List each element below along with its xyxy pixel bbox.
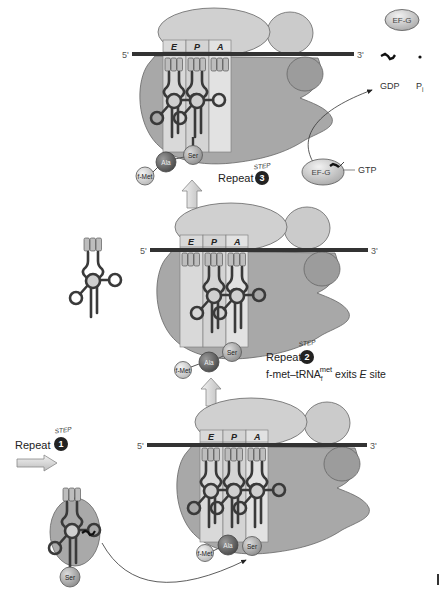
three-prime-label: 3' — [370, 441, 377, 451]
step-word: STEP — [253, 161, 271, 170]
edge-mark — [437, 574, 439, 585]
repeat-step-1-label: Repeat — [15, 439, 50, 451]
amino-acid-label: Ala — [161, 159, 171, 166]
ef-g-bound-label: EF-G — [311, 168, 330, 177]
step-number: 2 — [304, 352, 309, 362]
codon-a-top — [211, 58, 229, 71]
up-arrow-to-middle — [201, 378, 221, 406]
amino-acid-label: Ser — [188, 152, 199, 159]
mrna-middle — [150, 248, 368, 252]
amino-acid-label: Ala — [223, 542, 233, 549]
ef-g-free-label: EF-G — [392, 16, 411, 25]
right-arrow — [17, 455, 57, 471]
translation-diagram: 5' 3' E P A f-Met Ala Ser Repeat STEP 3 … — [0, 0, 440, 607]
amino-acid-label: Ala — [204, 359, 214, 366]
mrna-bottom — [147, 443, 367, 447]
site-p-label: P — [211, 237, 218, 247]
mrna-top — [132, 52, 354, 56]
gtp-label: GTP — [358, 165, 377, 175]
amino-acid-label: Ser — [227, 349, 238, 356]
exit-note: f-met–tRNAfmet exits E site — [266, 365, 386, 382]
amino-acid-label: Ser — [247, 543, 258, 550]
step-number: 1 — [58, 439, 63, 449]
repeat-step-2-label: Repeat — [266, 351, 301, 363]
step-word: STEP — [54, 425, 72, 434]
site-e-label: E — [171, 42, 178, 52]
amino-acid-label: f-Met — [176, 367, 191, 374]
site-p-label: P — [231, 432, 238, 442]
site-e-label: E — [188, 237, 195, 247]
step-number: 3 — [259, 173, 264, 183]
step-word: STEP — [298, 338, 316, 347]
site-e-label: E — [208, 432, 215, 442]
middle-panel: 5' 3' E P A f-Met Ala Ser Repeat STEP 2 … — [70, 203, 386, 406]
amino-acid-label: f-Met — [198, 550, 213, 557]
three-prime-label: 3' — [371, 246, 378, 256]
phosphate-icon — [418, 55, 421, 58]
five-prime-label: 5' — [140, 246, 147, 256]
ef-g-cycle: EF-G GDP Pi EF-G GTP — [302, 10, 423, 186]
exiting-trna — [70, 238, 121, 317]
three-prime-label: 3' — [357, 50, 364, 60]
bottom-panel: 5' 3' E P A f-Met Ala Ser Repeat STEP 1 … — [15, 398, 377, 587]
amino-acid-label: f-Met — [138, 173, 153, 180]
up-arrow-to-top — [182, 180, 202, 208]
gdp-molecule-icon — [381, 54, 395, 59]
codon-e-middle — [182, 253, 200, 266]
site-p-label: P — [194, 42, 201, 52]
amino-acid-label: Ser — [65, 574, 76, 581]
gdp-label: GDP — [380, 81, 400, 91]
pi-label: Pi — [416, 81, 423, 93]
repeat-step-3-label: Repeat — [218, 172, 253, 184]
site-a-label: A — [216, 42, 224, 52]
five-prime-label: 5' — [122, 50, 129, 60]
site-a-label: A — [233, 237, 241, 247]
five-prime-label: 5' — [137, 441, 144, 451]
site-a-label: A — [253, 432, 261, 442]
